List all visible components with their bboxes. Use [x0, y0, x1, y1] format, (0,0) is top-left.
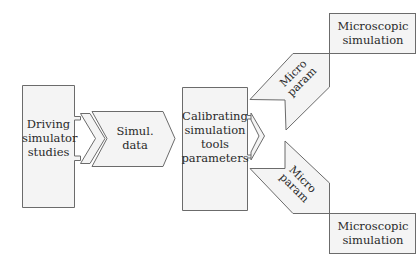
label-line: tools [176, 137, 254, 151]
driving-simulator-studies-label: Driving simulator studies [22, 117, 75, 159]
diagram-canvas: Driving simulator studies Simul. data Ca… [0, 0, 417, 263]
label-line: Driving [22, 117, 75, 131]
label-line: simulation [176, 123, 254, 137]
micro-sim-bottom-label: Microscopic simulation [330, 219, 416, 247]
label-line: data [112, 138, 158, 152]
calibrating-label: Calibrating simulation tools parameters [176, 109, 254, 165]
micro-sim-top-label: Microscopic simulation [330, 19, 416, 47]
label-line: parameters [176, 151, 254, 165]
label-line: simulation [330, 33, 416, 47]
label-line: simulator [22, 131, 75, 145]
label-line: Microscopic [330, 219, 416, 233]
label-line: Calibrating [176, 109, 254, 123]
label-line: Microscopic [330, 19, 416, 33]
label-line: Simul. [112, 124, 158, 138]
label-line: simulation [330, 233, 416, 247]
label-line: studies [22, 145, 75, 159]
simul-data-label: Simul. data [112, 124, 158, 152]
